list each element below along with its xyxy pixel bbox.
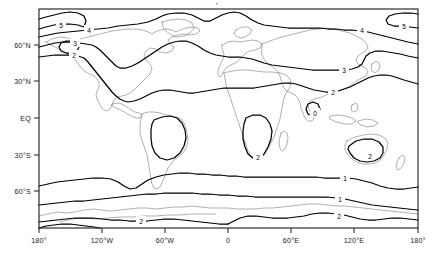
y-tick-label: 30°S — [15, 151, 31, 160]
contour-label-group: 2 — [334, 211, 344, 220]
contour-label-group: 4 — [84, 25, 94, 34]
contour-label-group: 1 — [335, 194, 345, 203]
contour-label-group: 0 — [310, 108, 320, 117]
contour-label-group: 1 — [340, 173, 350, 182]
contour-label: 1 — [338, 196, 342, 203]
contour-label: 0 — [313, 110, 317, 117]
contour-label-group: 2 — [69, 50, 79, 59]
contour-label: 2 — [331, 89, 335, 96]
contour-label: 2 — [72, 52, 76, 59]
contour-label: 5 — [59, 22, 63, 29]
contour-label-group: 5 — [399, 21, 409, 30]
y-tick-label: EQ — [20, 114, 31, 123]
y-tick-label: 60°N — [14, 41, 31, 50]
x-tick-label: 60°E — [283, 236, 299, 245]
contour-label-group: 2 — [328, 87, 338, 96]
contour-label-group: 2 — [365, 151, 375, 160]
canvas-background — [0, 0, 437, 255]
contour-label: 1 — [343, 175, 347, 182]
contour-label: 3 — [342, 67, 346, 74]
contour-label: 3 — [73, 40, 77, 47]
contour-label: 2 — [337, 213, 341, 220]
world-map-contour-figure: 5 4 3 2 4 5 3 — [0, 0, 437, 255]
contour-label-group: 3 — [339, 65, 349, 74]
x-tick-label: 120°E — [344, 236, 365, 245]
contour-label: 2 — [256, 154, 260, 161]
y-tick-label: 60°S — [15, 187, 31, 196]
contour-label-group: 2 — [253, 152, 263, 161]
contour-map-plot: 5 4 3 2 4 5 3 — [0, 0, 437, 255]
y-tick-label: 30°N — [14, 77, 31, 86]
contour-label: 4 — [87, 27, 91, 34]
contour-label: 5 — [402, 23, 406, 30]
x-tick-label: 0 — [226, 236, 230, 245]
contour-label-group: 2 — [136, 216, 146, 225]
contour-label-group: 3 — [70, 38, 80, 47]
contour-label: 2 — [139, 218, 143, 225]
contour-label: 4 — [360, 27, 364, 34]
x-tick-label: 180° — [410, 236, 426, 245]
contour-label-group: 5 — [56, 20, 66, 29]
x-tick-label: 60°W — [156, 236, 174, 245]
contour-label-group: 4 — [357, 25, 367, 34]
x-tick-label: 120°W — [91, 236, 114, 245]
x-tick-label: 180° — [31, 236, 47, 245]
contour-label: 2 — [368, 153, 372, 160]
stray-mark — [216, 3, 217, 4]
